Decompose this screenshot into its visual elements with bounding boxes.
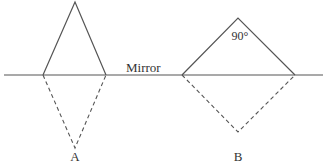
label-b: B (234, 149, 243, 164)
mirror-diagram: Mirror A 90° B (0, 0, 323, 166)
label-a: A (70, 149, 80, 164)
triangle-a-reflection (43, 75, 106, 148)
triangle-a (43, 2, 106, 75)
triangle-b-reflection (182, 75, 295, 132)
mirror-label: Mirror (126, 60, 161, 75)
triangle-b (182, 18, 295, 75)
angle-label: 90° (232, 29, 249, 43)
